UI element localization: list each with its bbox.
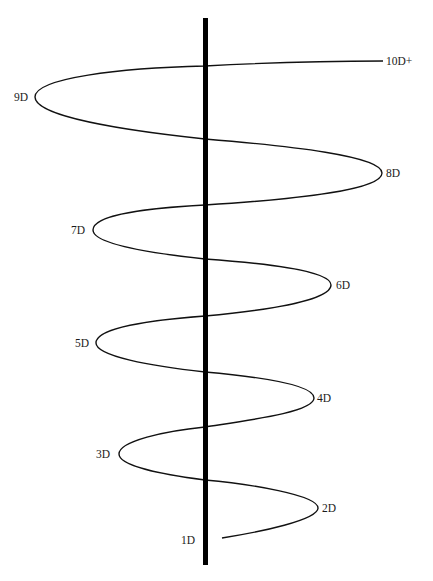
dimensions-spiral-diagram: 1D 2D 3D 4D 5D 6D 7D 8D 9D 10D+ [0,0,433,581]
label-3d: 3D [96,448,110,460]
label-2d: 2D [322,502,336,514]
label-6d: 6D [336,279,350,291]
label-1d: 1D [181,534,195,546]
label-7d: 7D [71,224,85,236]
label-9d: 9D [14,91,28,103]
dimension-spiral-curve [35,61,383,538]
label-8d: 8D [386,167,400,179]
label-4d: 4D [317,392,331,404]
label-5d: 5D [75,337,89,349]
label-10d-plus: 10D+ [386,55,412,67]
vertical-axis-bar [203,18,208,565]
